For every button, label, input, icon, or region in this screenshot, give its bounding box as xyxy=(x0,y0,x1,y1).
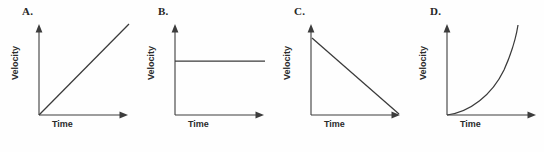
panel-a-x-axis-arrow-icon xyxy=(120,112,129,119)
velocity-time-figure: A. Velocity Time B. Velocity Time C. xyxy=(0,0,544,152)
panel-b-plot xyxy=(136,0,272,152)
panel-d-data-line xyxy=(447,25,518,115)
panel-b-y-axis-label: Velocity xyxy=(146,36,156,90)
panel-a: A. Velocity Time xyxy=(0,0,136,152)
panel-a-plot xyxy=(0,0,136,152)
panel-d-y-axis-arrow-icon xyxy=(444,24,451,33)
panel-b-x-axis-arrow-icon xyxy=(256,112,265,119)
panel-d-plot xyxy=(408,0,544,152)
panel-a-x-axis-label: Time xyxy=(52,119,73,129)
panel-c-data-line xyxy=(312,38,399,114)
panel-c-x-axis-arrow-icon xyxy=(392,112,401,119)
panel-a-y-axis-label: Velocity xyxy=(10,36,20,90)
panel-a-y-axis-arrow-icon xyxy=(36,24,43,33)
panel-a-data-line xyxy=(39,24,129,115)
panel-b: B. Velocity Time xyxy=(136,0,272,152)
panel-d-x-axis-label: Time xyxy=(460,119,481,129)
panel-c-plot xyxy=(272,0,408,152)
panel-b-x-axis-label: Time xyxy=(188,119,209,129)
panel-d-x-axis-arrow-icon xyxy=(528,112,537,119)
panel-d: D. Velocity Time xyxy=(408,0,544,152)
panel-c: C. Velocity Time xyxy=(272,0,408,152)
panel-c-x-axis-label: Time xyxy=(324,119,345,129)
panel-c-y-axis-label: Velocity xyxy=(282,36,292,90)
panel-c-y-axis-arrow-icon xyxy=(308,24,315,33)
panel-b-y-axis-arrow-icon xyxy=(172,24,179,33)
panel-d-y-axis-label: Velocity xyxy=(418,36,428,90)
